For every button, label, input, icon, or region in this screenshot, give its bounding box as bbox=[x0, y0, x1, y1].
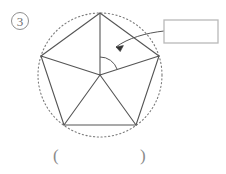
callout-arrow bbox=[116, 31, 164, 52]
radius-to-lower-left-vertex bbox=[64, 75, 100, 125]
answer-box[interactable] bbox=[164, 20, 218, 43]
item-number-label: 3 bbox=[17, 14, 24, 29]
callout-arrow-curve bbox=[116, 31, 164, 47]
geometry-figure: 3 ( ) bbox=[0, 0, 226, 174]
callout-arrow-head-icon bbox=[116, 46, 123, 52]
answer-paren-left: ( bbox=[53, 146, 59, 165]
worksheet-page: 3 ( ) bbox=[0, 0, 226, 174]
answer-paren-right: ) bbox=[140, 146, 146, 165]
radius-to-upper-left-vertex bbox=[41, 56, 100, 75]
radius-to-lower-right-vertex bbox=[100, 75, 136, 125]
central-angle-arc bbox=[100, 57, 117, 69]
answer-parentheses[interactable]: ( ) bbox=[53, 146, 146, 165]
circled-number-3: 3 bbox=[12, 13, 29, 30]
